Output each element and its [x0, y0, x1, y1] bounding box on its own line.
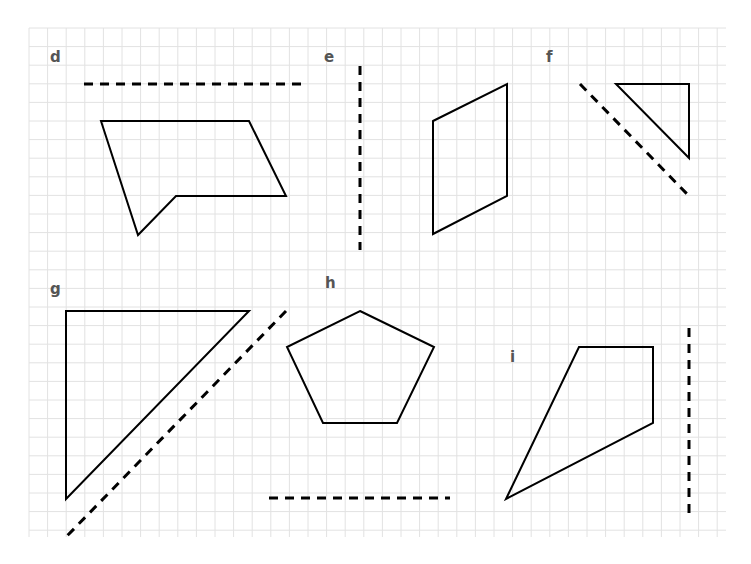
- shape-g: [66, 311, 249, 499]
- problem-f: f: [546, 48, 689, 196]
- shape-h: [287, 311, 434, 423]
- problem-label-h: h: [325, 274, 336, 292]
- problem-h: h: [269, 274, 450, 498]
- problem-e: e: [324, 48, 507, 250]
- problem-label-f: f: [546, 48, 553, 66]
- shape-e: [433, 84, 507, 234]
- problem-label-e: e: [324, 48, 334, 66]
- reflection-worksheet: d e f g h i: [0, 0, 751, 564]
- mirror-line-g: [66, 311, 286, 537]
- problem-label-g: g: [50, 280, 61, 298]
- problem-g: g: [50, 280, 286, 537]
- graph-paper-grid: [29, 28, 726, 537]
- problem-label-i: i: [510, 348, 515, 366]
- shape-d: [101, 121, 286, 235]
- problem-label-d: d: [50, 48, 61, 66]
- shape-i: [506, 347, 653, 499]
